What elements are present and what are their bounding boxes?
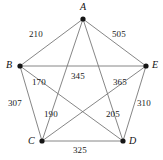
- graph-vertex-a: [80, 16, 85, 21]
- graph-vertex-e: [143, 63, 148, 68]
- vertex-label-c: C: [28, 136, 35, 146]
- vertex-label-a: A: [80, 2, 86, 12]
- edge-weight-de: 310: [137, 99, 151, 108]
- edge-weight-ab: 210: [29, 30, 43, 39]
- vertex-label-b: B: [6, 60, 12, 70]
- edge-weight-ac: 190: [44, 110, 58, 119]
- edge-weight-ce: 365: [113, 78, 127, 87]
- graph-vertex-c: [39, 138, 44, 143]
- edge-weight-bc: 307: [8, 99, 22, 108]
- weighted-graph-figure: ABCDE 210505345307325310170190205365: [0, 0, 163, 160]
- edge-weight-ae: 505: [112, 30, 126, 39]
- graph-edge-ce: [42, 66, 146, 141]
- edge-weight-ad: 205: [106, 110, 120, 119]
- edge-weight-bd: 170: [32, 78, 46, 87]
- edge-weight-be: 345: [71, 72, 85, 81]
- graph-vertex-d: [120, 138, 125, 143]
- edge-weight-cd: 325: [73, 146, 87, 155]
- graph-vertex-b: [17, 63, 22, 68]
- vertex-label-e: E: [152, 60, 158, 70]
- graph-edge-ab: [20, 19, 83, 66]
- vertex-label-d: D: [129, 136, 136, 146]
- graph-edge-ae: [83, 19, 146, 66]
